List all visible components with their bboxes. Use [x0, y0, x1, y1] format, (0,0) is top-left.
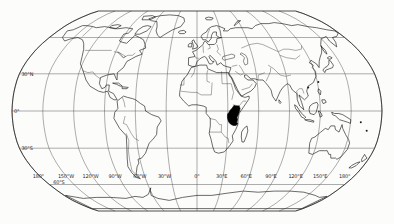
coastline-new-guinea — [332, 112, 351, 123]
latitude-label: 0° — [14, 108, 20, 114]
longitude-label: 30°E — [216, 173, 227, 179]
border-kenya-ethiopia-somalia — [233, 101, 246, 106]
border-turkey-syria — [232, 65, 238, 66]
coastline-luzon — [318, 89, 321, 95]
longitude-label: 150°E — [313, 173, 327, 179]
coastline-madagascar — [241, 126, 248, 142]
coastline-south-america — [114, 96, 161, 179]
border-saudi-north — [235, 71, 243, 75]
coastline-mindanao — [322, 100, 326, 104]
latitude-label: 30°N — [21, 71, 33, 77]
border-congo-angola-zambia — [209, 118, 221, 132]
island-dot-hainan — [307, 86, 309, 88]
coastline-baffin-island — [135, 26, 151, 35]
coastline-iceland — [178, 30, 186, 33]
world-map-figure: 30°N0°30°S60°S180°150°W120°W90°W60°W30°W… — [0, 0, 394, 224]
island-dot-vanuatu — [366, 130, 368, 132]
island-dot-taiwan — [317, 81, 319, 83]
longitude-label: 0° — [194, 173, 200, 179]
coastline-honshu — [323, 60, 334, 72]
longitude-label: 60°W — [133, 173, 146, 179]
coastline-ireland — [188, 43, 192, 47]
latitude-label: 60°S — [53, 179, 64, 185]
border-sudan-ethiopia — [231, 84, 233, 100]
coastline-new-zealand-north — [362, 154, 368, 161]
longitude-label: 120°W — [83, 173, 99, 179]
border-china-mongolia — [280, 55, 300, 59]
coastline-cuba — [113, 83, 123, 86]
border-pakistan-india — [266, 68, 271, 82]
coastline-greenland — [149, 15, 185, 38]
border-iran-iraq — [239, 65, 244, 74]
longitude-label: 90°E — [265, 173, 276, 179]
coastline-borneo — [309, 102, 318, 114]
longitude-label: 60°E — [241, 173, 252, 179]
border-algeria-libya — [207, 70, 210, 82]
longitude-label: 120°E — [288, 173, 302, 179]
border-sahel — [181, 83, 212, 95]
border-egypt-libya — [222, 71, 223, 83]
border-indochina — [297, 89, 304, 94]
border-saudi-yemen-oman — [242, 84, 253, 90]
border-finland-russia — [218, 27, 221, 37]
lake-caspian-sea — [240, 53, 248, 65]
coastline-eurasia — [188, 23, 338, 110]
border-morocco-algeria — [191, 68, 195, 78]
latitude-label: 30°S — [21, 145, 32, 151]
border-himalaya — [268, 65, 291, 76]
longitude-label: 180° — [33, 173, 45, 179]
coastline-australia — [309, 125, 350, 160]
coastline-svalbard — [205, 17, 213, 20]
world-map: 30°N0°30°S60°S180°150°W120°W90°W60°W30°W… — [0, 0, 394, 224]
coastline-hispaniola — [122, 87, 128, 89]
border-russia-kazakh-china — [241, 43, 301, 51]
longitude-label: 150°W — [58, 173, 74, 179]
border-east-europe — [217, 45, 221, 56]
coastline-novaya-zemlya — [234, 21, 240, 26]
coastline-antarctica — [66, 188, 327, 209]
coastline-java — [305, 120, 314, 123]
longitude-label: 30°W — [158, 173, 171, 179]
border-poland — [208, 45, 211, 50]
border-argentina-chile — [126, 133, 136, 175]
coastline-new-zealand-south — [349, 162, 360, 168]
coastline-hokkaido — [327, 57, 332, 60]
border-zambezi — [221, 132, 229, 143]
border-us-canada-east — [118, 52, 136, 58]
longitude-label: 180° — [339, 173, 351, 179]
border-colombia-venezuela — [122, 97, 125, 107]
island-dot-solomon-islands — [360, 121, 362, 123]
border-alaska-canada — [82, 27, 93, 37]
lake-black-sea — [222, 54, 235, 60]
longitude-label: 90°W — [109, 173, 122, 179]
coastline-sri-lanka — [279, 100, 281, 104]
